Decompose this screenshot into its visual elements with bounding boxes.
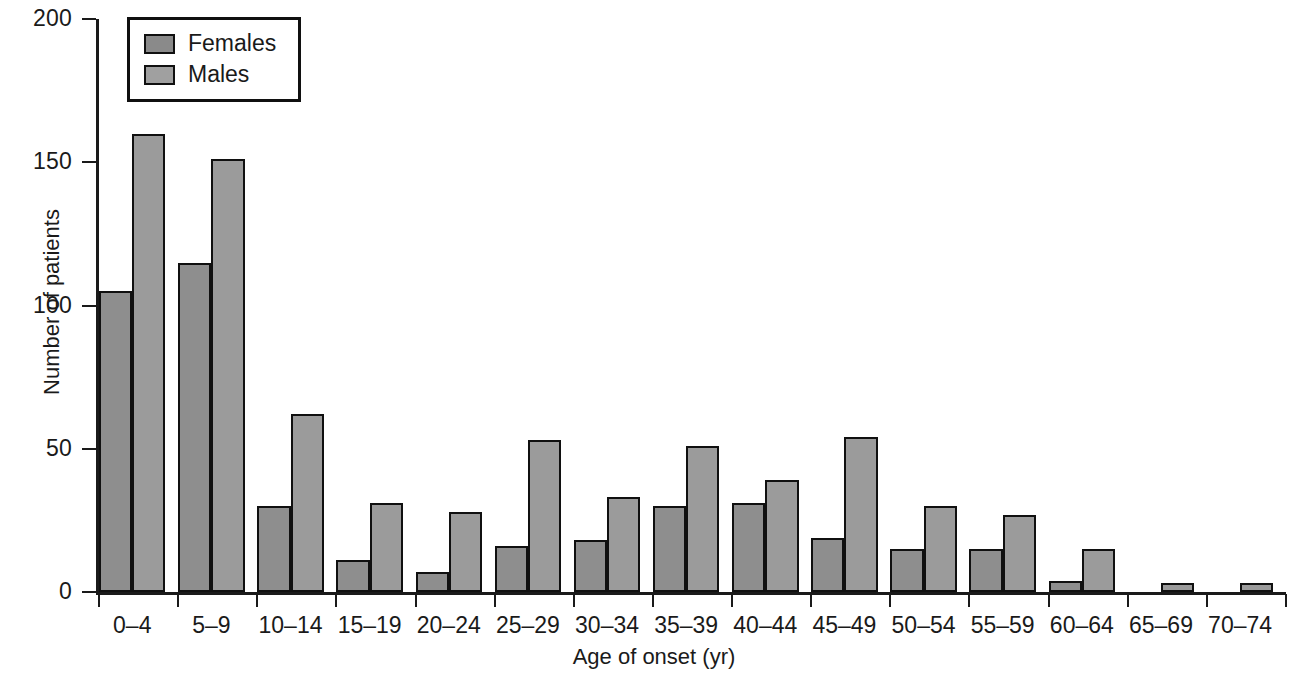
x-tick-label-0: 0–4 (113, 612, 151, 638)
bar-males-12 (1082, 549, 1115, 592)
bar-males-14 (1240, 583, 1273, 592)
x-tick-6 (573, 594, 575, 607)
x-tick-label-12: 60–64 (1050, 612, 1114, 638)
bar-males-3 (370, 503, 403, 592)
legend-swatch-females-icon (144, 34, 175, 54)
bar-males-10 (924, 506, 957, 592)
legend-entry-females: Females (144, 28, 276, 59)
bar-males-5 (528, 440, 561, 592)
bar-females-11 (969, 549, 1002, 592)
x-tick-label-13: 65–69 (1129, 612, 1193, 638)
x-tick-label-1: 5–9 (192, 612, 230, 638)
x-axis-title: Age of onset (yr) (0, 646, 1308, 668)
legend-entry-males: Males (144, 59, 276, 90)
x-tick-8 (731, 594, 733, 607)
x-tick-label-10: 50–54 (892, 612, 956, 638)
x-tick-label-2: 10–14 (259, 612, 323, 638)
x-tick-label-3: 15–19 (338, 612, 402, 638)
x-tick-3 (335, 594, 337, 607)
bar-males-7 (686, 446, 719, 592)
bar-females-8 (732, 503, 765, 592)
x-tick-15 (1285, 594, 1287, 607)
legend-label-females: Females (188, 32, 276, 55)
legend-label-males: Males (188, 63, 249, 86)
bar-males-6 (607, 497, 640, 592)
x-tick-label-9: 45–49 (812, 612, 876, 638)
x-tick-label-7: 35–39 (654, 612, 718, 638)
x-tick-10 (889, 594, 891, 607)
x-axis-line (96, 592, 1286, 595)
bar-males-0 (132, 134, 165, 592)
x-tick-label-11: 55–59 (971, 612, 1035, 638)
x-tick-13 (1127, 594, 1129, 607)
bar-females-3 (336, 560, 369, 592)
bar-males-13 (1161, 583, 1194, 592)
x-tick-2 (256, 594, 258, 607)
bar-females-5 (495, 546, 528, 592)
bar-males-2 (291, 414, 324, 592)
bar-females-0 (99, 291, 132, 592)
x-tick-label-5: 25–29 (496, 612, 560, 638)
x-tick-1 (177, 594, 179, 607)
bar-females-1 (178, 263, 211, 592)
x-tick-label-8: 40–44 (733, 612, 797, 638)
bar-females-10 (890, 549, 923, 592)
bar-females-7 (653, 506, 686, 592)
x-tick-12 (1048, 594, 1050, 607)
x-tick-7 (652, 594, 654, 607)
bar-males-8 (765, 480, 798, 592)
bar-males-9 (844, 437, 877, 592)
bar-males-1 (211, 159, 244, 592)
x-tick-5 (494, 594, 496, 607)
bar-females-4 (416, 572, 449, 592)
chart-legend: Females Males (127, 17, 301, 102)
x-tick-label-6: 30–34 (575, 612, 639, 638)
bar-males-11 (1003, 515, 1036, 592)
legend-swatch-males-icon (144, 65, 175, 85)
x-tick-9 (810, 594, 812, 607)
bar-females-2 (257, 506, 290, 592)
x-tick-14 (1206, 594, 1208, 607)
x-tick-0 (98, 594, 100, 607)
bar-females-6 (574, 540, 607, 592)
x-tick-11 (968, 594, 970, 607)
x-tick-label-4: 20–24 (417, 612, 481, 638)
x-tick-label-14: 70–74 (1208, 612, 1272, 638)
x-tick-4 (415, 594, 417, 607)
bar-females-12 (1049, 581, 1082, 592)
bar-males-4 (449, 512, 482, 592)
chart-figure: Number of patients 050100150200 0–45–910… (0, 0, 1308, 676)
bar-females-9 (811, 538, 844, 592)
